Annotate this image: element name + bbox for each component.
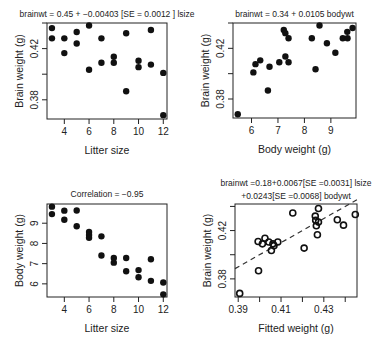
data-point (123, 268, 129, 274)
data-point (349, 25, 355, 31)
data-point (61, 35, 67, 41)
panel-brain-vs-litter: brainwt = 0.45 + −0.00403 [SE = 0.0012 ]… (13, 9, 195, 156)
y-tick-label: 7 (29, 260, 40, 266)
x-tick-label: 6 (86, 304, 92, 315)
reference-line (235, 200, 357, 269)
x-axis-label: Body weight (g) (258, 143, 331, 155)
data-point (257, 57, 263, 63)
x-tick-label: 12 (158, 126, 170, 137)
data-point (73, 207, 79, 213)
x-tick-label: 7 (275, 125, 281, 136)
data-point (135, 64, 141, 70)
y-axis-label: Brain weight (g) (201, 214, 213, 288)
data-point (148, 27, 154, 33)
chart-subtitle: +0.0243[SE =0.0068] bodywt (241, 191, 351, 201)
data-point (98, 252, 104, 258)
data-point (315, 205, 321, 211)
data-point (250, 69, 256, 75)
data-point (344, 35, 350, 41)
x-tick-label: 9 (328, 125, 334, 136)
data-point (49, 25, 55, 31)
x-tick-label: 0.41 (271, 304, 291, 315)
panel-brain-vs-fitted: brainwt =0.18+0.0067[SE =0.0031] lsize+0… (201, 178, 372, 334)
data-point (73, 29, 79, 35)
data-point (314, 232, 320, 238)
x-tick-label: 6 (249, 125, 255, 136)
data-point (86, 22, 92, 28)
x-tick-label: 10 (133, 304, 145, 315)
data-point (160, 112, 166, 118)
x-tick-label: 0.43 (314, 304, 334, 315)
data-point (111, 259, 117, 265)
data-point (123, 88, 129, 94)
y-tick-label: 0.38 (217, 269, 228, 289)
data-point (309, 35, 315, 41)
data-point (111, 54, 117, 60)
x-tick-label: 8 (111, 304, 117, 315)
data-point (344, 29, 350, 35)
data-point (285, 59, 291, 65)
data-point (256, 268, 262, 274)
x-tick-label: 12 (158, 304, 170, 315)
data-point (61, 50, 67, 56)
y-tick-label: 0.42 (29, 38, 40, 58)
data-point (266, 63, 272, 69)
data-point (86, 67, 92, 73)
y-tick-label: 0.42 (215, 38, 226, 58)
y-axis-label: Brain weight (g) (13, 34, 25, 108)
panel-body-vs-litter: Correlation = −0.9546810126789Litter siz… (13, 189, 169, 334)
chart-title: brainwt = 0.45 + −0.00403 [SE = 0.0012 ]… (20, 9, 195, 19)
data-point (61, 207, 67, 213)
y-axis-label: Brain weight (g) (199, 34, 211, 108)
data-point (135, 274, 141, 280)
data-point (290, 210, 296, 216)
x-tick-label: 4 (62, 304, 68, 315)
data-point (61, 217, 67, 223)
x-axis-label: Fitted weight (g) (258, 322, 333, 334)
data-point (49, 203, 55, 209)
x-tick-label: 8 (111, 126, 117, 137)
data-point (148, 256, 154, 262)
y-tick-label: 0.38 (29, 90, 40, 110)
y-tick-label: 9 (29, 220, 40, 226)
data-point (148, 61, 154, 67)
data-point (282, 53, 288, 59)
data-point (332, 50, 338, 56)
data-point (49, 35, 55, 41)
data-point (235, 111, 241, 117)
data-point (86, 235, 92, 241)
data-point (334, 217, 340, 223)
data-point (73, 40, 79, 46)
data-point (123, 30, 129, 36)
data-point (135, 58, 141, 64)
x-tick-label: 0.39 (228, 304, 248, 315)
data-point (98, 59, 104, 65)
data-point (316, 22, 322, 28)
data-point (73, 223, 79, 229)
data-point (312, 66, 318, 72)
x-tick-label: 8 (302, 125, 308, 136)
y-axis-label: Body weight (g) (13, 214, 25, 287)
y-tick-label: 0.42 (217, 220, 228, 240)
chart-title: brainwt = 0.34 + 0.0105 bodywt (235, 9, 354, 19)
data-point (341, 222, 347, 228)
chart-title: Correlation = −0.95 (71, 189, 144, 199)
data-point (324, 40, 330, 46)
y-tick-label: 8 (29, 240, 40, 246)
data-point (265, 87, 271, 93)
data-point (123, 255, 129, 261)
x-tick-label: 10 (133, 126, 145, 137)
data-point (160, 291, 166, 297)
y-tick-label: 6 (29, 281, 40, 287)
data-point (49, 211, 55, 217)
data-point (237, 290, 243, 296)
data-point (276, 59, 282, 65)
y-tick-label: 0.38 (215, 89, 226, 109)
panel-brain-vs-body: brainwt = 0.34 + 0.0105 bodywt67890.380.… (199, 9, 356, 155)
data-point (148, 278, 154, 284)
x-tick-label: 6 (86, 126, 92, 137)
x-tick-label: 4 (62, 126, 68, 137)
data-point (301, 245, 307, 251)
data-point (135, 267, 141, 273)
figure-2x2-scatter: brainwt = 0.45 + −0.00403 [SE = 0.0012 ]… (0, 0, 372, 344)
